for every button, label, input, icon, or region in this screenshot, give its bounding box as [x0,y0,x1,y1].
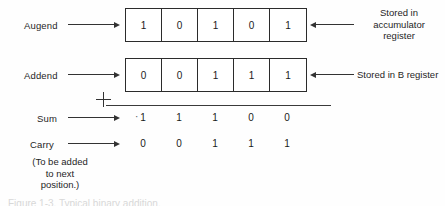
carry-arrow [68,139,120,148]
addend-register: 0 0 1 1 1 [125,58,307,92]
sum-digit-row: 1 1 1 0 0 [125,112,305,123]
sum-digit: 1 [161,112,197,123]
sum-digit: 1 [125,112,161,123]
addend-bit-cell: 1 [198,59,234,91]
b-register-note-arrow-line [315,74,354,75]
addend-bit-cell: 0 [162,59,198,91]
augend-bit-cell: 1 [198,9,234,41]
carry-digit: 0 [161,138,197,149]
sum-arrow [68,113,120,122]
figure-caption: Figure 1-3. Typical binary addition. [8,198,161,206]
addend-arrow-line [68,74,115,75]
carry-arrow-line [68,143,115,144]
augend-bit-cell: 1 [126,9,162,41]
augend-bit-cell: 0 [234,9,270,41]
accumulator-note: Stored in accumulator register [356,7,442,42]
addend-bit-cell: 1 [270,59,306,91]
augend-row-label: Augend [24,20,58,31]
addend-bit-cell: 1 [234,59,270,91]
augend-bit-cell: 1 [270,9,306,41]
carry-digit-row: 0 0 1 1 1 [125,138,305,149]
accumulator-note-arrow-line [315,24,354,25]
carry-arrow-head-icon [114,141,120,147]
sum-digit: 1 [197,112,233,123]
augend-register: 1 0 1 0 1 [125,8,307,42]
sum-arrow-line [68,117,115,118]
addend-arrow-head-icon [114,72,120,78]
sum-arrow-head-icon [114,115,120,121]
augend-arrow-line [68,24,115,25]
addend-arrow [68,70,120,79]
augend-bit-cell: 0 [162,9,198,41]
augend-arrow [68,20,120,29]
carry-digit: 1 [197,138,233,149]
sum-digit: 0 [233,112,269,123]
accumulator-note-arrow [310,20,354,29]
figure-canvas: Augend 1 0 1 0 1 Stored in accumulator r… [0,0,445,206]
b-register-note: Stored in B register [357,69,445,81]
addend-row-label: Addend [24,70,58,81]
augend-arrow-head-icon [114,22,120,28]
carry-digit: 1 [233,138,269,149]
sum-digit: 0 [269,112,305,123]
b-register-note-arrow [310,70,354,79]
carry-digit: 1 [269,138,305,149]
carry-row-label: Carry [30,139,54,150]
carry-footnote: (To be added to next position.) [4,156,116,191]
sum-rule-line [106,105,331,106]
plus-vertical-stroke [103,92,104,107]
carry-digit: 0 [125,138,161,149]
sum-row-label: Sum [37,113,57,124]
addend-bit-cell: 0 [126,59,162,91]
